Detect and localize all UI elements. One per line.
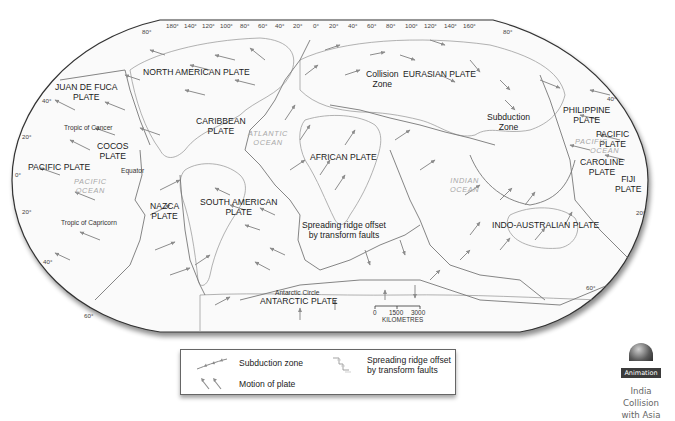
longitude-label: 80° [240,22,249,29]
longitude-label: 180° [166,22,179,29]
longitude-label: 120° [202,22,215,29]
annotation-tropic-capricorn: Tropic of Capricorn [61,219,117,227]
plate-label-juan-de-fuca: JUAN DE FUCA PLATE [55,83,118,102]
plate-label-fiji: FIJI PLATE [615,175,642,194]
longitude-label: 0° [313,22,319,29]
latitude-label-left: 20° [22,133,31,140]
world-map [0,0,675,345]
map-legend: Subduction zone Motion of plate Spreadin… [180,349,456,395]
plate-label-eurasian: EURASIAN PLATE [403,70,476,80]
globe-icon [629,343,653,361]
longitude-label: 160° [463,22,476,29]
animation-caption-line-2: with Asia [616,409,666,421]
subduction-zone-icon [195,356,229,372]
animation-badge[interactable]: Animation [621,368,660,378]
plate-label-indo-australian: INDO-AUSTRALIAN PLATE [492,221,599,231]
annotation-collision-zone: Collision Zone [366,70,398,89]
latitude-label-right: 80° [503,28,512,35]
legend-subduction-label: Subduction zone [239,358,303,368]
longitude-label: 40° [275,22,284,29]
annotation-tropic-cancer: Tropic of Cancer [64,124,113,132]
latitude-label-left: 60° [84,312,93,319]
map-outline [12,20,648,332]
animation-caption-line-1: India Collision [616,385,666,409]
plate-label-south-american: SOUTH AMERICAN PLATE [200,198,277,217]
latitude-label-left: 0° [15,171,21,178]
latitude-label-left: 40° [43,258,52,265]
longitude-label: 100° [405,22,418,29]
scale-unit: KILOMETRES [382,316,423,323]
plate-label-philippine: PHILIPPINE PLATE [563,106,610,125]
longitude-label: 40° [348,22,357,29]
longitude-label: 140° [444,22,457,29]
longitude-label: 140° [184,22,197,29]
plate-label-antarctic: ANTARCTIC PLATE [260,297,338,307]
legend-spreading-label: Spreading ridge offset by transform faul… [367,355,451,375]
scale-tick-1500: 1500 [389,309,403,316]
scale-tick-3000: 3000 [411,309,425,316]
plate-label-pacific-west: PACIFIC PLATE [28,163,90,173]
longitude-label: 120° [424,22,437,29]
longitude-label: 20° [293,22,302,29]
plate-label-african: AFRICAN PLATE [310,153,377,163]
latitude-label-right: 20° [636,209,645,216]
annotation-subduction-zone: Subduction Zone [487,113,530,132]
longitude-label: 20° [329,22,338,29]
annotation-antarctic-circle: Antarctic Circle [275,289,319,297]
ocean-label-indian: INDIAN OCEAN [450,177,479,194]
animation-link[interactable]: Animation India Collision with Asia [616,343,666,421]
scale-tick-0: 0 [373,309,377,316]
ocean-label-pacific-east-2: OCEAN [590,147,619,156]
ocean-label-pacific-west: PACIFIC OCEAN [74,178,107,195]
latitude-label-right: 60° [586,284,595,291]
plate-label-north-american: NORTH AMERICAN PLATE [143,68,250,78]
plate-motion-icon [199,377,233,391]
legend-motion-label: Motion of plate [239,379,295,389]
annotation-spreading-ridge: Spreading ridge offset by transform faul… [302,221,386,240]
annotation-equator: Equator [121,167,144,175]
plate-label-caribbean: CARIBBEAN PLATE [196,117,246,136]
longitude-label: 100° [220,22,233,29]
longitude-label: 80° [386,22,395,29]
spreading-ridge-icon [331,356,353,378]
plate-label-nazca: NAZCA PLATE [150,202,179,221]
latitude-label-left: 40° [42,97,51,104]
plate-label-cocos: COCOS PLATE [97,142,129,161]
latitude-label-left: 80° [142,28,151,35]
latitude-label-right: 40° [607,95,616,102]
ocean-label-atlantic: ATLANTIC OCEAN [248,130,288,147]
longitude-label: 60° [367,22,376,29]
latitude-label-left: 20° [22,208,31,215]
longitude-label: 60° [258,22,267,29]
animation-caption[interactable]: India Collision with Asia [616,385,666,421]
